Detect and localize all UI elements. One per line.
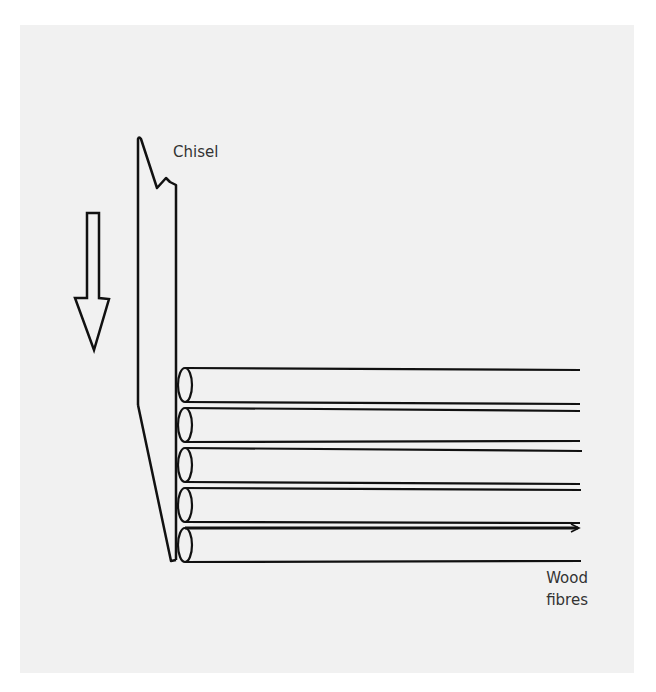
wood-fibres-label-line2: fibres bbox=[532, 589, 588, 611]
chisel-label: Chisel bbox=[173, 141, 218, 163]
chisel-shape bbox=[138, 138, 176, 562]
wood-fibres bbox=[178, 368, 582, 562]
wood-fibres-label-line1: Wood bbox=[532, 567, 588, 589]
wood-fibres-label: Wood fibres bbox=[532, 567, 588, 611]
down-arrow-icon bbox=[75, 213, 109, 350]
